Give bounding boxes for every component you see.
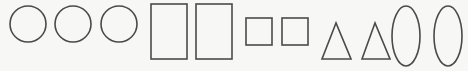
rectangle-shape: [151, 4, 187, 59]
squares-group: [246, 18, 308, 45]
shapes-diagram: [0, 0, 468, 71]
square-shape: [282, 18, 308, 45]
ellipses-group: [392, 6, 462, 66]
ellipse-shape: [392, 6, 420, 66]
triangle-shape: [362, 23, 390, 59]
rectangles-group: [151, 4, 232, 59]
ellipse-shape: [434, 6, 462, 66]
circle-shape: [10, 6, 46, 42]
circles-group: [10, 6, 137, 42]
rectangle-shape: [196, 4, 232, 59]
triangles-group: [322, 23, 390, 59]
circle-shape: [55, 6, 91, 42]
square-shape: [246, 18, 272, 45]
triangle-shape: [322, 23, 351, 59]
circle-shape: [101, 6, 137, 42]
